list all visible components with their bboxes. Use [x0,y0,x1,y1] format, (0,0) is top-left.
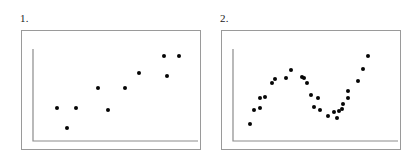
data-point [289,68,293,72]
data-point [361,67,365,71]
data-point [258,106,262,110]
panel-1-plot-area [22,31,200,149]
data-point [162,54,166,58]
figure-root: 1. 2. [0,0,412,165]
data-point [106,108,110,112]
data-point [316,96,320,100]
data-point [96,86,100,90]
data-point [312,105,316,109]
data-point [74,106,78,110]
panel-2-axis-lines [222,31,402,151]
data-point [263,95,267,99]
data-point [305,81,309,85]
panel-1-label: 1. [20,13,29,24]
scatter-panel-1: 1. [0,0,206,165]
data-point [284,76,288,80]
data-point [340,107,344,111]
data-point [123,86,127,90]
data-point [65,126,69,130]
panel-2-frame [221,30,401,150]
panel-2-label: 2. [220,13,229,24]
data-point [302,76,306,80]
data-point [346,89,350,93]
data-point [335,116,339,120]
data-point [270,81,274,85]
data-point [309,93,313,97]
data-point [177,54,181,58]
data-point [346,96,350,100]
data-point [326,114,330,118]
scatter-panel-2: 2. [206,0,412,165]
data-point [273,77,277,81]
panel-1-axis-lines [22,31,202,151]
data-point [366,54,370,58]
data-point [137,71,141,75]
panel-2-plot-area [222,31,400,149]
panel-1-frame [21,30,201,150]
data-point [341,102,345,106]
data-point [55,106,59,110]
data-point [318,108,322,112]
data-point [258,96,262,100]
data-point [252,108,256,112]
data-point [248,122,252,126]
data-point [356,79,360,83]
data-point [165,74,169,78]
data-point [332,110,336,114]
